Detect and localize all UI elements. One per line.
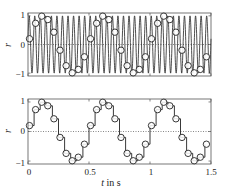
bottom-xtick-1.5: 1.5 bbox=[205, 167, 217, 177]
bottom-sample-marker bbox=[26, 122, 32, 128]
bottom-y-axis-label: r bbox=[2, 129, 13, 133]
bottom-ytick-0: 0 bbox=[21, 126, 26, 136]
top-ytick-minus1: −1 bbox=[15, 69, 25, 79]
bottom-sample-marker bbox=[148, 122, 154, 128]
bottom-ytick-minus1: −1 bbox=[15, 158, 25, 168]
top-sample-marker bbox=[45, 16, 51, 22]
top-sample-marker bbox=[100, 13, 106, 19]
bottom-sample-marker bbox=[161, 99, 167, 105]
bottom-sample-marker bbox=[39, 99, 45, 105]
bottom-xtick-0: 0 bbox=[27, 167, 32, 177]
top-sample-marker bbox=[118, 47, 124, 53]
bottom-ytick-1: 1 bbox=[21, 96, 26, 106]
top-sample-marker bbox=[32, 20, 38, 26]
bottom-sample-marker bbox=[51, 116, 57, 122]
x-axis-label: t in s bbox=[101, 177, 121, 187]
bottom-sample-marker bbox=[197, 154, 203, 160]
top-sample-marker bbox=[154, 20, 160, 26]
top-sample-marker bbox=[191, 70, 197, 76]
bottom-sample-marker bbox=[118, 134, 124, 140]
bottom-sample-marker bbox=[32, 106, 38, 112]
top-sample-marker bbox=[39, 13, 45, 19]
bottom-sample-marker bbox=[154, 106, 160, 112]
top-sample-marker bbox=[75, 66, 81, 72]
top-sample-marker bbox=[130, 70, 136, 76]
bottom-sample-marker bbox=[167, 103, 173, 109]
top-sample-marker bbox=[63, 62, 69, 68]
top-sample-marker bbox=[26, 36, 32, 42]
bottom-sample-marker bbox=[93, 106, 99, 112]
top-sample-marker bbox=[124, 62, 130, 68]
bottom-sample-marker bbox=[100, 99, 106, 105]
top-ytick-0: 0 bbox=[21, 40, 26, 50]
top-sample-marker bbox=[167, 16, 173, 22]
top-y-axis-label: r bbox=[2, 43, 13, 47]
top-sample-marker bbox=[69, 70, 75, 76]
top-sample-marker bbox=[203, 54, 209, 60]
bottom-sample-marker bbox=[173, 116, 179, 122]
top-sample-marker bbox=[87, 36, 93, 42]
bottom-sample-marker bbox=[179, 134, 185, 140]
top-sample-marker bbox=[93, 20, 99, 26]
bottom-sample-marker bbox=[69, 158, 75, 164]
bottom-sample-marker bbox=[185, 150, 191, 156]
bottom-sample-marker bbox=[130, 158, 136, 164]
top-sample-marker bbox=[185, 62, 191, 68]
top-sample-marker bbox=[112, 29, 118, 35]
top-sample-marker bbox=[148, 36, 154, 42]
bottom-sample-marker bbox=[75, 154, 81, 160]
x-axis-unit: in s bbox=[104, 177, 121, 187]
top-sample-marker bbox=[161, 13, 167, 19]
bottom-sample-marker bbox=[203, 141, 209, 147]
top-ytick-1: 1 bbox=[21, 10, 26, 20]
top-sample-marker bbox=[136, 66, 142, 72]
top-sample-marker bbox=[197, 66, 203, 72]
bottom-sample-marker bbox=[63, 150, 69, 156]
top-sample-marker bbox=[51, 29, 57, 35]
bottom-sample-marker bbox=[124, 150, 130, 156]
bottom-sample-marker bbox=[57, 134, 63, 140]
bottom-sample-marker bbox=[136, 154, 142, 160]
top-sample-marker bbox=[173, 29, 179, 35]
bottom-sample-marker bbox=[142, 141, 148, 147]
figure: 1 0 −1 r 1 0 −1 r 0 0.5 1 1.5 t in s bbox=[0, 0, 226, 187]
top-sample-marker bbox=[179, 47, 185, 53]
bottom-sample-marker bbox=[81, 141, 87, 147]
bottom-xtick-0.5: 0.5 bbox=[84, 167, 96, 177]
top-sample-marker bbox=[142, 54, 148, 60]
top-sample-marker bbox=[81, 54, 87, 60]
bottom-sample-marker bbox=[112, 116, 118, 122]
bottom-sample-marker bbox=[191, 158, 197, 164]
bottom-xtick-1: 1 bbox=[149, 167, 154, 177]
top-sample-marker bbox=[106, 16, 112, 22]
bottom-sample-marker bbox=[106, 103, 112, 109]
bottom-sample-marker bbox=[87, 122, 93, 128]
top-sample-marker bbox=[57, 47, 63, 53]
bottom-sample-marker bbox=[45, 103, 51, 109]
